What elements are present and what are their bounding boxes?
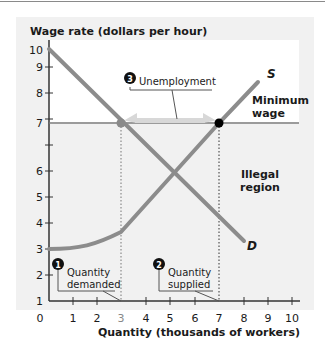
illegal-region-label-line2: region (240, 181, 280, 194)
svg-text:5: 5 (36, 191, 43, 204)
svg-text:1: 1 (55, 261, 61, 270)
svg-text:demanded: demanded (67, 279, 121, 290)
minimum-wage-label-line1: Minimum (252, 94, 309, 107)
supply-label: S (267, 67, 276, 81)
svg-text:10: 10 (29, 44, 43, 57)
svg-text:supplied: supplied (168, 279, 210, 290)
svg-text:8: 8 (36, 87, 43, 100)
svg-text:1: 1 (36, 295, 43, 308)
svg-text:6: 6 (36, 165, 43, 178)
svg-text:9: 9 (36, 61, 43, 74)
svg-text:Unemployment: Unemployment (139, 76, 216, 87)
quantity-supplied-callout: 2 Quantity supplied (153, 258, 219, 301)
svg-text:4: 4 (143, 312, 150, 325)
svg-text:4: 4 (36, 217, 43, 230)
x-axis-title: Quantity (thousands of workers) (98, 326, 300, 339)
svg-text:8: 8 (241, 312, 248, 325)
minimum-wage-label-line2: wage (252, 107, 285, 120)
svg-text:5: 5 (167, 312, 174, 325)
svg-text:7: 7 (36, 117, 43, 130)
svg-text:2: 2 (94, 312, 101, 325)
svg-text:0: 0 (37, 312, 44, 325)
svg-text:2: 2 (156, 261, 162, 270)
svg-text:3: 3 (127, 75, 133, 84)
quantity-demanded-callout: 1 Quantity demanded (52, 258, 121, 301)
illegal-region-label-line1: Illegal (241, 168, 279, 181)
svg-text:9: 9 (265, 312, 272, 325)
svg-text:10: 10 (285, 312, 299, 325)
y-tick-labels: 1 2 3 4 5 6 7 8 9 10 (29, 44, 43, 308)
svg-text:2: 2 (36, 269, 43, 282)
svg-text:Quantity: Quantity (67, 267, 110, 278)
svg-text:3: 3 (118, 312, 125, 325)
quantity-demanded-point (117, 119, 126, 128)
svg-text:1: 1 (70, 312, 77, 325)
quantity-supplied-point (215, 119, 224, 128)
demand-label: D (247, 239, 257, 253)
svg-text:6: 6 (192, 312, 199, 325)
svg-text:7: 7 (216, 312, 223, 325)
y-axis-title: Wage rate (dollars per hour) (30, 25, 207, 38)
svg-text:Quantity: Quantity (168, 267, 211, 278)
labor-market-chart: 1 2 3 4 5 6 7 8 9 10 0 1 2 3 4 5 6 7 8 9… (0, 0, 325, 355)
svg-text:3: 3 (36, 243, 43, 256)
x-tick-labels: 0 1 2 3 4 5 6 7 8 9 10 (37, 312, 300, 325)
